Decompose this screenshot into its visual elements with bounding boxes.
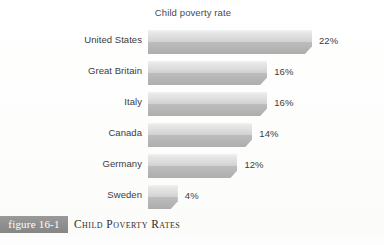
bar-row: Sweden4% bbox=[0, 183, 384, 214]
bar-plot-area: United States22%Great Britain16%Italy16%… bbox=[0, 28, 384, 214]
bar-highlight bbox=[148, 123, 252, 126]
figure-number-badge: figure 16-1 bbox=[0, 216, 68, 233]
category-label-italy: Italy bbox=[10, 96, 142, 107]
bar-fill bbox=[148, 30, 312, 54]
bar-fill bbox=[148, 61, 267, 85]
bar-sweden bbox=[148, 185, 178, 209]
category-label-great-britain: Great Britain bbox=[10, 65, 142, 76]
category-label-united-states: United States bbox=[10, 34, 142, 45]
bar-fill bbox=[148, 185, 178, 209]
bar-highlight bbox=[148, 61, 267, 64]
bar-row: Italy16% bbox=[0, 90, 384, 121]
value-label-canada: 14% bbox=[259, 128, 278, 139]
value-label-germany: 12% bbox=[244, 159, 263, 170]
bar-fill bbox=[148, 154, 237, 178]
bar-great-britain bbox=[148, 61, 267, 85]
figure-page: Child poverty rate United States22%Great… bbox=[0, 0, 384, 245]
bar-fill bbox=[148, 123, 252, 147]
bar-italy bbox=[148, 92, 267, 116]
category-label-germany: Germany bbox=[10, 158, 142, 169]
bar-canada bbox=[148, 123, 252, 147]
chart-container: Child poverty rate United States22%Great… bbox=[0, 0, 384, 214]
value-label-italy: 16% bbox=[274, 97, 293, 108]
category-label-canada: Canada bbox=[10, 127, 142, 138]
value-label-united-states: 22% bbox=[319, 35, 338, 46]
figure-caption-text: Child Poverty Rates bbox=[74, 216, 180, 233]
bar-row: Great Britain16% bbox=[0, 59, 384, 90]
bar-fill bbox=[148, 92, 267, 116]
figure-caption: figure 16-1 Child Poverty Rates bbox=[0, 215, 384, 234]
chart-title: Child poverty rate bbox=[118, 7, 268, 18]
category-label-sweden: Sweden bbox=[10, 189, 142, 200]
page-bottom-margin bbox=[0, 236, 384, 245]
bar-germany bbox=[148, 154, 237, 178]
bar-highlight bbox=[148, 185, 178, 188]
bar-row: United States22% bbox=[0, 28, 384, 59]
bar-highlight bbox=[148, 30, 312, 33]
bar-highlight bbox=[148, 154, 237, 157]
value-label-great-britain: 16% bbox=[274, 66, 293, 77]
bar-united-states bbox=[148, 30, 312, 54]
value-label-sweden: 4% bbox=[185, 190, 199, 201]
bar-row: Germany12% bbox=[0, 152, 384, 183]
bar-highlight bbox=[148, 92, 267, 95]
bar-row: Canada14% bbox=[0, 121, 384, 152]
